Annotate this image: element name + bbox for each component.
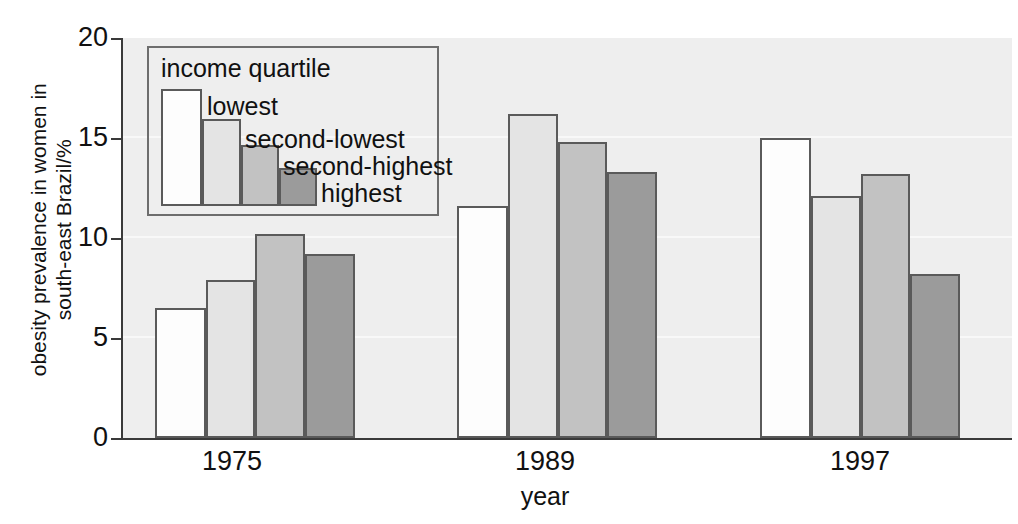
bar-1975-second-highest bbox=[255, 234, 305, 438]
bar-1975-highest bbox=[305, 254, 355, 438]
y-axis-title: obesity prevalence in women insouth-east… bbox=[27, 15, 77, 445]
bar-1997-highest bbox=[910, 274, 960, 438]
legend-label-second-lowest: second-lowest bbox=[245, 127, 405, 152]
legend-swatch-lowest bbox=[161, 89, 202, 206]
legend-swatch-second-highest bbox=[241, 145, 279, 206]
bar-1975-second-lowest bbox=[206, 280, 255, 438]
legend-label-second-highest: second-highest bbox=[283, 154, 453, 179]
y-tick-mark-20 bbox=[111, 38, 121, 40]
y-tick-mark-0 bbox=[111, 438, 121, 440]
legend-label-highest: highest bbox=[321, 181, 402, 206]
y-tick-mark-15 bbox=[111, 138, 121, 140]
legend-label-lowest: lowest bbox=[207, 94, 278, 119]
bar-1989-second-lowest bbox=[508, 114, 558, 438]
y-axis-title-line2: south-east Brazil/% bbox=[52, 139, 75, 320]
bar-1989-second-highest bbox=[558, 142, 607, 438]
bar-1975-lowest bbox=[155, 308, 206, 438]
bar-1997-lowest bbox=[760, 138, 811, 438]
x-axis-title: year bbox=[465, 484, 625, 509]
legend-title: income quartile bbox=[161, 56, 331, 81]
y-axis-title-line1: obesity prevalence in women in bbox=[27, 83, 50, 376]
bar-1989-lowest bbox=[457, 206, 508, 438]
plot-area: income quartile lowest second-lowest sec… bbox=[121, 38, 1012, 440]
x-tick-label-1975: 1975 bbox=[152, 448, 312, 475]
bar-1989-highest bbox=[607, 172, 657, 438]
bar-1997-second-highest bbox=[861, 174, 910, 438]
bar-1997-second-lowest bbox=[811, 196, 861, 438]
chart-figure: 20 15 10 5 0 obesity prevalence in women… bbox=[0, 0, 1018, 524]
x-tick-label-1989: 1989 bbox=[465, 448, 625, 475]
legend-swatch-second-lowest bbox=[202, 119, 241, 206]
y-tick-mark-5 bbox=[111, 338, 121, 340]
x-tick-label-1997: 1997 bbox=[780, 448, 940, 475]
chart-legend: income quartile lowest second-lowest sec… bbox=[147, 46, 439, 216]
y-tick-mark-10 bbox=[111, 238, 121, 240]
